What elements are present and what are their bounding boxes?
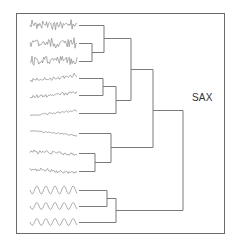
- time-series-leaf-9: [30, 168, 77, 173]
- time-series-leaf-2: [30, 38, 77, 49]
- dendrogram-figure: [0, 0, 238, 240]
- figure-frame: [17, 14, 225, 234]
- time-series-leaf-5: [30, 92, 77, 98]
- time-series-leaf-8: [30, 150, 77, 155]
- time-series-leaf-6: [30, 110, 77, 116]
- time-series-leaf-1: [30, 20, 77, 30]
- time-series-leaf-11: [30, 203, 77, 210]
- time-series-leaf-7: [30, 131, 77, 136]
- time-series-leaf-10: [30, 186, 77, 194]
- method-label: SAX: [192, 92, 213, 103]
- time-series-leaf-4: [30, 73, 77, 82]
- time-series-leaf-12: [30, 219, 77, 226]
- time-series-leaf-3: [30, 56, 77, 65]
